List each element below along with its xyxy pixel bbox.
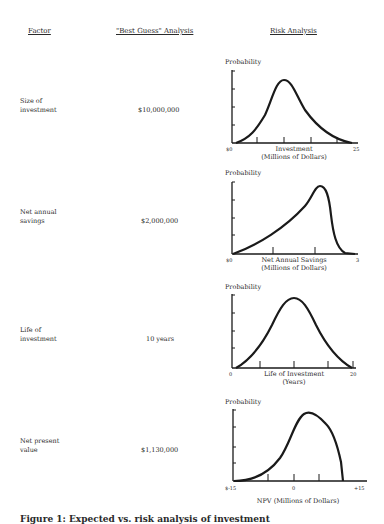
figure-caption: Figure 1: Expected vs. risk analysis of … bbox=[20, 514, 270, 524]
chart4-plot bbox=[0, 0, 384, 524]
chart4-xmin: $-15 bbox=[225, 485, 236, 491]
chart4-xlabel: NPV (Millions of Dollars) bbox=[248, 497, 348, 505]
chart4-xmid: 0 bbox=[292, 485, 295, 491]
chart4-xmax: +15 bbox=[354, 485, 365, 491]
